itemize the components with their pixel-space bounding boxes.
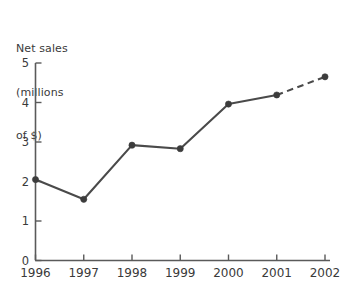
data-point-1997 xyxy=(81,196,87,202)
data-point-2000 xyxy=(225,101,231,107)
x-tick-label-2001: 2001 xyxy=(261,266,292,280)
data-point-1996 xyxy=(32,176,38,182)
x-tick-label-1996: 1996 xyxy=(20,266,51,280)
x-tick-label-1998: 1998 xyxy=(117,266,148,280)
y-axis-ticks: 012345 xyxy=(22,56,42,268)
x-tick-label-2000: 2000 xyxy=(213,266,244,280)
x-tick-label-2002: 2002 xyxy=(310,266,341,280)
y-tick-label-2: 2 xyxy=(22,175,29,189)
x-tick-label-1997: 1997 xyxy=(68,266,99,280)
y-tick-label-3: 3 xyxy=(22,135,29,149)
x-axis-ticks: 1996199719981999200020012002 xyxy=(20,255,340,281)
x-tick-label-1999: 1999 xyxy=(165,266,196,280)
data-point-2002 xyxy=(322,74,328,80)
data-point-1998 xyxy=(129,142,135,148)
data-point-2001 xyxy=(274,92,280,98)
data-line-solid xyxy=(36,95,277,199)
data-line-dashed-projection xyxy=(277,77,325,95)
line-chart-figure: Net sales (millions of $) 012345 1996199… xyxy=(0,0,348,299)
data-point-1999 xyxy=(177,146,183,152)
y-tick-label-4: 4 xyxy=(22,96,29,110)
y-tick-label-1: 1 xyxy=(22,214,29,228)
plot-area: 012345 1996199719981999200020012002 xyxy=(0,0,348,299)
data-point-markers xyxy=(32,74,328,203)
y-tick-label-5: 5 xyxy=(22,56,29,70)
